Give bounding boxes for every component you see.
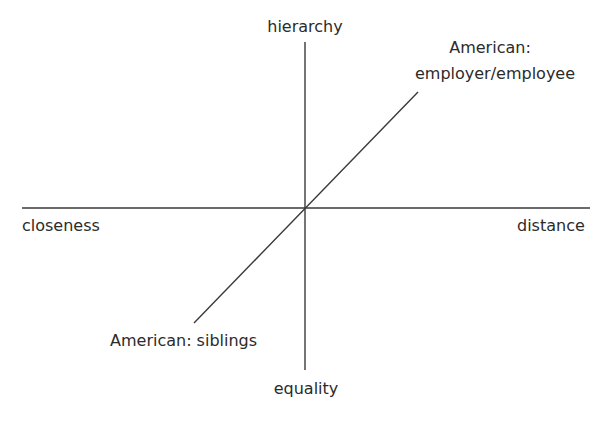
label-american-employer-line1: American:: [400, 38, 580, 58]
label-american-employer-line2: employer/employee: [410, 64, 580, 84]
label-equality: equality: [264, 379, 348, 399]
label-hierarchy: hierarchy: [262, 17, 348, 37]
label-american-siblings: American: siblings: [110, 331, 257, 351]
label-closeness: closeness: [22, 216, 100, 236]
label-distance: distance: [517, 216, 585, 236]
